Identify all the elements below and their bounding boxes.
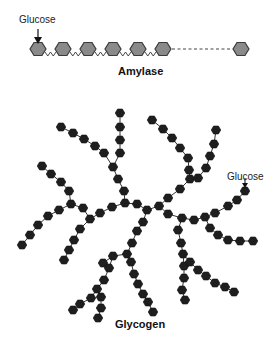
glucose-unit-hexagon (115, 149, 125, 157)
glucose-unit-hexagon (223, 236, 233, 244)
glucose-unit-hexagon (210, 209, 220, 217)
glucose-unit-hexagon (163, 194, 173, 202)
glucose-unit-hexagon (56, 123, 66, 131)
glucose-unit-hexagon (108, 252, 118, 260)
starch-structure-diagram: Glucose Amylase Glucose Glycogen (0, 0, 279, 340)
glucose-unit-hexagon (126, 258, 136, 266)
glucose-unit-hexagon (173, 226, 183, 234)
glucose-unit-hexagon (25, 231, 35, 239)
glycosidic-bond (95, 52, 106, 56)
glucose-unit-hexagon (96, 293, 106, 301)
glucose-unit-hexagon (213, 231, 223, 239)
glucose-unit-hexagon (223, 202, 233, 210)
glucose-unit-hexagon (147, 116, 157, 124)
glucose-unit-hexagon (96, 304, 106, 312)
glucose-unit-hexagon (177, 214, 187, 222)
glucose-unit-hexagon (163, 210, 173, 218)
glucose-unit-hexagon (180, 296, 190, 304)
glucose-unit-hexagon (178, 250, 188, 258)
glucose-unit-hexagon (177, 286, 187, 294)
glycosidic-bond (45, 52, 56, 56)
glycogen-units (17, 109, 258, 322)
glucose-unit-hexagon (78, 204, 88, 212)
glucose-unit-hexagon (220, 283, 230, 291)
amylase-glucose-label: Glucose (19, 14, 56, 25)
amylase-title: Amylase (118, 65, 163, 77)
glucose-unit-hexagon (143, 298, 153, 306)
glycosidic-bond (70, 52, 81, 56)
glucose-unit-hexagon (64, 187, 74, 195)
glucose-unit-hexagon (64, 246, 74, 254)
glucose-unit-hexagon (86, 294, 96, 302)
glucose-unit-hexagon (68, 306, 78, 314)
glucose-unit-hexagon (30, 43, 46, 56)
glucose-unit-hexagon (209, 140, 219, 148)
glucose-unit-hexagon (92, 285, 102, 293)
glucose-unit-hexagon (99, 149, 109, 157)
glycosidic-bond (145, 52, 156, 56)
glucose-unit-hexagon (69, 236, 79, 244)
amylase-chain (30, 29, 249, 56)
glucose-unit-hexagon (75, 225, 85, 233)
glucose-unit-hexagon (248, 237, 258, 245)
diagram-canvas (0, 0, 279, 340)
glucose-unit-hexagon (120, 199, 130, 207)
glucose-unit-hexagon (138, 290, 148, 298)
glucose-unit-hexagon (68, 129, 78, 137)
glucose-unit-hexagon (80, 43, 96, 56)
glucose-unit-hexagon (46, 170, 56, 178)
glucose-unit-hexagon (130, 43, 146, 56)
glucose-unit-hexagon (85, 215, 95, 223)
glucose-unit-hexagon (201, 272, 211, 280)
glucose-unit-hexagon (66, 200, 76, 208)
glucose-unit-hexagon (113, 175, 123, 183)
glycogen-glucose-label: Glucose (227, 171, 264, 182)
glucose-unit-hexagon (104, 264, 114, 272)
glucose-unit-hexagon (95, 209, 105, 217)
glycogen-title: Glycogen (115, 318, 165, 330)
glycogen-branch-bond (125, 120, 190, 210)
glucose-unit-hexagon (54, 206, 64, 214)
glucose-unit-hexagon (133, 280, 143, 288)
glucose-unit-hexagon (142, 206, 152, 214)
glucose-unit-hexagon (185, 175, 195, 183)
glucose-unit-hexagon (154, 202, 164, 210)
glucose-unit-hexagon (115, 136, 125, 144)
glucose-unit-hexagon (158, 125, 168, 133)
glucose-unit-hexagon (127, 239, 137, 247)
glycosidic-bond (120, 52, 131, 56)
glucose-unit-hexagon (108, 163, 118, 171)
glucose-unit-hexagon (43, 212, 53, 220)
glucose-unit-hexagon (176, 239, 186, 247)
glucose-unit-hexagon (175, 185, 185, 193)
glucose-unit-hexagon (232, 196, 242, 204)
glucose-unit-hexagon (132, 200, 142, 208)
glucose-unit-hexagon (138, 218, 148, 226)
glycogen-branched-structure (17, 109, 258, 322)
glucose-unit-hexagon (205, 152, 215, 160)
glucose-unit-hexagon (105, 43, 121, 56)
glucose-unit-hexagon (37, 162, 47, 170)
glucose-unit-hexagon (155, 43, 171, 56)
glucose-unit-hexagon (99, 276, 109, 284)
glucose-unit-hexagon (205, 224, 215, 232)
glucose-unit-hexagon (233, 43, 249, 56)
glucose-unit-hexagon (184, 166, 194, 174)
glucose-unit-hexagon (129, 270, 139, 278)
glucose-unit-hexagon (119, 187, 129, 195)
glucose-unit-hexagon (56, 178, 66, 186)
glucose-unit-hexagon (167, 134, 177, 142)
glucose-unit-hexagon (33, 221, 43, 229)
glucose-unit-hexagon (185, 258, 195, 266)
glucose-unit-hexagon (93, 314, 103, 322)
glucose-unit-hexagon (79, 135, 89, 143)
glucose-unit-hexagon (175, 144, 185, 152)
glucose-unit-hexagon (183, 154, 193, 162)
glucose-unit-hexagon (179, 274, 189, 282)
glucose-unit-hexagon (229, 288, 239, 296)
glucose-unit-hexagon (193, 266, 203, 274)
glucose-unit-hexagon (55, 43, 71, 56)
glucose-unit-hexagon (193, 174, 203, 182)
glucose-unit-hexagon (200, 213, 210, 221)
glucose-unit-hexagon (59, 256, 69, 264)
